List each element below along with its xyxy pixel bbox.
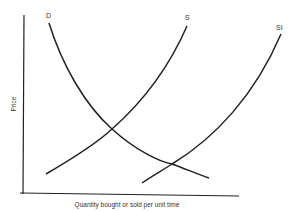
y-axis-label: Price: [10, 96, 17, 111]
y-axis: [23, 15, 24, 194]
shifted-supply-curve: [142, 34, 281, 183]
x-axis-label: Quantity bought or sold per unit time: [75, 201, 180, 209]
shifted-supply-label: SI: [276, 24, 283, 31]
supply-demand-diagram: D S SI Quantity bought or sold per unit …: [0, 0, 298, 211]
supply-label: S: [185, 14, 190, 21]
x-axis: [20, 193, 239, 196]
supply-curve: [46, 26, 187, 174]
demand-label: D: [46, 12, 51, 19]
